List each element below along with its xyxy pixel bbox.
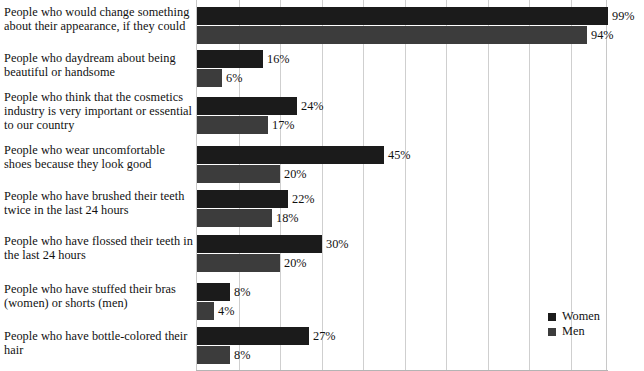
chart-legend: Women Men [548,309,600,339]
gridline [363,0,364,371]
bar-men [197,254,280,272]
category-label-column: People who would change something about … [0,0,196,371]
bar-value-label: 94% [591,26,614,44]
bar-value-label: 24% [301,97,324,115]
category-label: People who wear uncomfortable shoes beca… [4,143,194,171]
bar-men [197,69,222,87]
category-label: People who have brushed their teeth twic… [4,189,194,217]
bar-value-label: 22% [292,190,315,208]
bar-value-label: 16% [267,50,290,68]
bar-women [197,50,263,68]
category-label: People who think that the cosmetics indu… [4,90,194,133]
gridline [529,0,530,371]
bar-value-label: 27% [313,327,336,345]
category-label: People who have bottle-colored their hai… [4,329,194,357]
legend-swatch-women-icon [548,313,556,321]
bar-men [197,346,230,364]
bar-women [197,235,322,253]
bar-men [197,302,214,320]
legend-label-women: Women [562,309,600,324]
legend-item-women: Women [548,309,600,324]
bar-value-label: 20% [284,165,307,183]
bar-women [197,283,230,301]
bar-men [197,116,268,134]
plot-area: 99%94%16%6%24%17%45%20%22%18%30%20%8%4%2… [196,0,607,371]
bar-value-label: 4% [218,302,234,320]
bar-women [197,7,608,25]
bar-value-label: 30% [326,235,349,253]
bar-men [197,165,280,183]
bar-value-label: 20% [284,254,307,272]
bar-value-label: 17% [272,116,295,134]
category-label: People who have stuffed their bras (wome… [4,282,194,310]
gridline [446,0,447,371]
gridline [405,0,406,371]
category-label: People who would change something about … [4,5,194,33]
bar-women [197,97,297,115]
category-label: People who have flossed their teeth in t… [4,234,194,262]
bar-women [197,146,384,164]
legend-item-men: Men [548,324,600,339]
bar-value-label: 18% [276,209,299,227]
bar-value-label: 6% [226,69,242,87]
bar-value-label: 99% [612,7,635,25]
bar-value-label: 45% [388,146,411,164]
bar-women [197,190,288,208]
grouped-bar-chart: People who would change something about … [0,0,644,371]
gridline [488,0,489,371]
category-label: People who daydream about being beautifu… [4,51,194,79]
bar-men [197,209,272,227]
bar-women [197,327,309,345]
gridline [322,0,323,371]
legend-label-men: Men [562,324,585,339]
bar-men [197,26,587,44]
bar-value-label: 8% [234,346,250,364]
bar-value-label: 8% [234,283,250,301]
legend-swatch-men-icon [548,328,556,336]
